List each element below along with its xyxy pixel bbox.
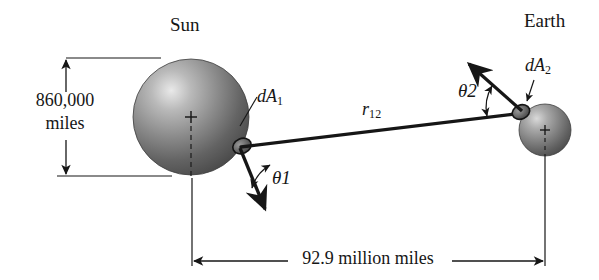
sun-body [133,59,249,176]
dA1-A: A [266,86,277,106]
dA1-label: dA1 [257,87,283,108]
r12-r: r [362,99,369,119]
dA1-subscript: 1 [277,94,283,108]
r12-subscript: 12 [369,107,381,121]
dA2-leader-arrow [527,80,534,101]
theta2-angle-arc [486,86,492,116]
earth-label: Earth [524,11,565,31]
theta1-symbol: θ [272,167,281,188]
dA2-d: d [525,55,534,75]
theta2-symbol: θ [458,80,467,101]
radiation-exchange-diagram: Sun Earth 860,000 miles 92.9 million mil… [0,0,599,280]
dA1-normal-arrow [240,148,265,209]
r12-line [241,113,523,147]
theta2-label: θ2 [458,81,477,101]
r12-label: r12 [362,100,381,121]
dA1-d: d [257,86,266,106]
sun-earth-distance-value: 92.9 million miles [288,249,448,268]
normal-vector-1 [240,148,270,209]
theta1-label: θ1 [272,168,291,188]
diagram-canvas [0,0,599,280]
sun-diameter-unit-line2: miles [15,114,115,133]
sun-diameter-value-line1: 860,000 [15,91,115,110]
theta1-subscript: 1 [281,167,291,188]
dA2-subscript: 2 [545,63,551,77]
sun-label: Sun [170,15,200,35]
dA2-A: A [534,55,545,75]
theta2-subscript: 2 [467,80,477,101]
dA2-label: dA2 [525,56,551,77]
r12-ray [241,113,523,147]
